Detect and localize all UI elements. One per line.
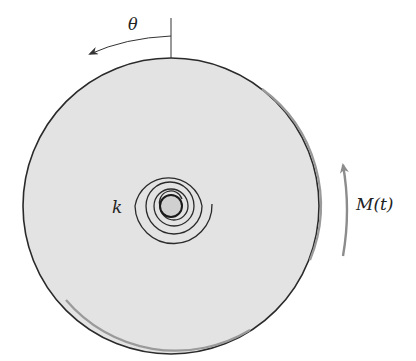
theta-arrow [90,36,171,54]
moment-indicator: M(t) [343,165,394,256]
diagram-canvas: θ k M(t) [0,0,416,361]
hub [160,195,182,217]
moment-label: M(t) [355,194,394,214]
moment-arrow [343,165,347,256]
spring-constant-label: k [112,197,122,217]
angle-indicator: θ [90,15,171,58]
theta-label: θ [128,15,138,34]
